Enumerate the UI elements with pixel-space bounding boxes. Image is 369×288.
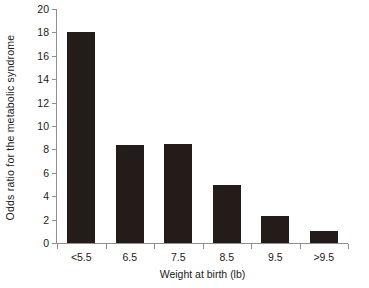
x-tick-label: 9.5 (268, 252, 283, 263)
y-axis-title: Odds ratio for the metabolic syndrome (2, 5, 18, 250)
y-tick-label: 20 (37, 4, 49, 15)
y-tick-mark (52, 220, 56, 221)
y-tick-mark (52, 9, 56, 10)
y-tick-label: 18 (37, 27, 49, 38)
x-axis-title: Weight at birth (lb) (57, 267, 348, 281)
y-tick-mark (52, 149, 56, 150)
bar (116, 145, 144, 243)
y-tick-label: 8 (43, 144, 49, 155)
bar (310, 231, 338, 243)
bar (261, 216, 289, 243)
plot-area: 02468101214161820 <5.56.57.58.59.5>9.5 (57, 9, 348, 243)
y-tick-mark (52, 56, 56, 57)
y-tick-mark (52, 103, 56, 104)
bar (67, 32, 95, 243)
y-tick-label: 0 (43, 238, 49, 249)
y-tick-label: 4 (43, 191, 49, 202)
y-tick-mark (52, 243, 56, 244)
y-tick-label: 14 (37, 74, 49, 85)
x-tick-label: 6.5 (122, 252, 137, 263)
x-tick-mark (106, 244, 107, 249)
x-tick-mark (251, 244, 252, 249)
x-tick-mark (348, 244, 349, 249)
bar-chart-figure: Odds ratio for the metabolic syndrome 02… (0, 0, 369, 288)
y-tick-label: 6 (43, 168, 49, 179)
bar (213, 185, 241, 244)
y-tick-label: 16 (37, 51, 49, 62)
y-tick-label: 12 (37, 97, 49, 108)
x-tick-label: 8.5 (219, 252, 234, 263)
y-tick-mark (52, 173, 56, 174)
x-axis-line (56, 243, 348, 244)
bar (164, 144, 192, 243)
y-tick-label: 10 (37, 121, 49, 132)
y-tick-label: 2 (43, 214, 49, 225)
x-tick-mark (203, 244, 204, 249)
x-tick-label: 7.5 (171, 252, 186, 263)
x-tick-mark (57, 244, 58, 249)
y-tick-mark (52, 126, 56, 127)
x-tick-mark (300, 244, 301, 249)
x-tick-label: >9.5 (313, 252, 334, 263)
y-tick-mark (52, 32, 56, 33)
y-axis-line (56, 9, 57, 244)
x-tick-mark (154, 244, 155, 249)
x-tick-label: <5.5 (71, 252, 92, 263)
y-tick-mark (52, 79, 56, 80)
y-tick-mark (52, 196, 56, 197)
